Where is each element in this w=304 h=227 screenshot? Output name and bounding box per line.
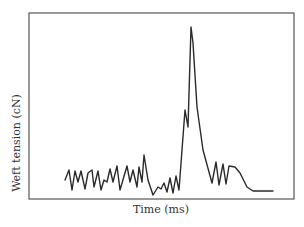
- weft-tension-line: [65, 27, 273, 195]
- chart-canvas: [0, 0, 304, 227]
- x-axis-label: Time (ms): [111, 203, 211, 216]
- y-axis-label: Weft tension (cN): [10, 83, 24, 203]
